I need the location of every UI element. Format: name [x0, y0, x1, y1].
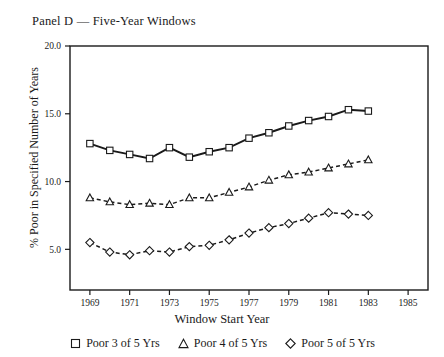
x-tick-label: 1977 [240, 298, 259, 308]
diamond-marker [145, 247, 153, 255]
x-tick-label: 1969 [80, 298, 99, 308]
square-marker [146, 155, 152, 161]
line-chart-plot: 5.010.015.020.01969197119731975197719791… [0, 0, 444, 357]
diamond-marker [225, 236, 233, 244]
legend-item-poor-4-of-5: Poor 4 of 5 Yrs [177, 336, 268, 351]
series-line [90, 213, 368, 255]
square-marker [87, 140, 93, 146]
x-tick-label: 1973 [160, 298, 179, 308]
triangle-marker [265, 176, 272, 183]
diamond-marker [185, 243, 193, 251]
diamond-marker [126, 251, 134, 259]
diamond-marker [265, 224, 273, 232]
square-marker [186, 154, 192, 160]
series-line [90, 160, 368, 205]
triangle-marker-icon [177, 337, 190, 350]
square-marker [365, 108, 371, 114]
square-marker [286, 123, 292, 129]
x-tick-label: 1983 [359, 298, 378, 308]
diamond-marker [86, 238, 94, 246]
triangle-marker [186, 194, 193, 201]
square-marker [325, 113, 331, 119]
triangle-marker [365, 156, 372, 163]
figure-panel-d: Panel D — Five-Year Windows % Poor in Sp… [0, 0, 444, 357]
triangle-marker [206, 194, 213, 201]
chart-legend: Poor 3 of 5 Yrs Poor 4 of 5 Yrs Poor 5 o… [0, 336, 444, 351]
square-marker [305, 117, 311, 123]
x-tick-label: 1979 [279, 298, 298, 308]
square-marker [246, 135, 252, 141]
square-marker [166, 144, 172, 150]
legend-item-poor-5-of-5: Poor 5 of 5 Yrs [284, 336, 375, 351]
diamond-marker-icon [284, 337, 297, 350]
diamond-marker [245, 229, 253, 237]
square-marker [126, 151, 132, 157]
y-tick-label: 10.0 [44, 177, 61, 187]
diamond-marker [106, 248, 114, 256]
x-tick-label: 1985 [399, 298, 418, 308]
square-marker-icon [69, 337, 82, 350]
x-tick-label: 1971 [120, 298, 139, 308]
series-diamond [86, 209, 373, 259]
square-marker [226, 144, 232, 150]
legend-label-poor-4-of-5: Poor 4 of 5 Yrs [194, 336, 268, 351]
y-tick-label: 5.0 [49, 245, 61, 255]
x-tick-label: 1975 [200, 298, 219, 308]
triangle-marker [86, 194, 93, 201]
diamond-marker [305, 214, 313, 222]
y-tick-label: 15.0 [44, 109, 61, 119]
x-axis-label: Window Start Year [0, 312, 444, 327]
square-marker [345, 107, 351, 113]
square-marker [206, 149, 212, 155]
series-square [87, 107, 372, 162]
legend-item-poor-3-of-5: Poor 3 of 5 Yrs [69, 336, 160, 351]
diamond-marker [344, 210, 352, 218]
triangle-marker [225, 189, 232, 196]
diamond-marker [324, 209, 332, 217]
x-tick-label: 1981 [319, 298, 338, 308]
diamond-marker [205, 241, 213, 249]
square-marker [107, 147, 113, 153]
diamond-marker [165, 248, 173, 256]
y-tick-label: 20.0 [44, 41, 61, 51]
diamond-marker [364, 211, 372, 219]
legend-label-poor-5-of-5: Poor 5 of 5 Yrs [301, 336, 375, 351]
square-marker [266, 130, 272, 136]
diamond-marker [285, 219, 293, 227]
series-triangle [86, 156, 372, 208]
legend-label-poor-3-of-5: Poor 3 of 5 Yrs [86, 336, 160, 351]
